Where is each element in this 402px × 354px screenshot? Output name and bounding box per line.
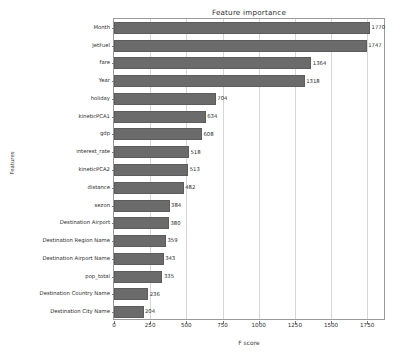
y-tick-mark (112, 277, 115, 278)
bar-value-label: 634 (207, 114, 217, 119)
bar[interactable] (114, 57, 311, 69)
y-tick-mark (112, 117, 115, 118)
y-tick-label: Destination Airport Name (2, 256, 110, 261)
bar[interactable] (114, 217, 169, 229)
y-tick-mark (112, 99, 115, 100)
y-tick-mark (112, 63, 115, 64)
y-tick-label: Destination Airport (2, 220, 110, 225)
y-tick-mark (112, 188, 115, 189)
bar-row[interactable]: 513 (114, 164, 200, 176)
y-tick-mark (112, 134, 115, 135)
bar-value-label: 343 (165, 256, 175, 261)
y-tick-mark (112, 241, 115, 242)
y-tick-label: Month (2, 25, 110, 30)
y-tick-mark (112, 81, 115, 82)
y-tick-mark (112, 259, 115, 260)
bar-value-label: 482 (185, 185, 195, 190)
bar-row[interactable]: 380 (114, 217, 181, 229)
chart-title: Feature importance (113, 8, 385, 17)
x-axis-label: F score (113, 339, 385, 346)
bar-value-label: 335 (164, 274, 174, 279)
bar-row[interactable]: 204 (114, 306, 155, 318)
bar-row[interactable]: 482 (114, 182, 195, 194)
x-tick-label: 1750 (360, 323, 374, 329)
bar-row[interactable]: 634 (114, 111, 217, 123)
x-gridline (367, 19, 368, 319)
bar-row[interactable]: 1318 (114, 75, 320, 87)
bar[interactable] (114, 75, 305, 87)
y-tick-label: gdp (2, 131, 110, 136)
bar-row[interactable]: 1770 (114, 22, 385, 34)
bar[interactable] (114, 271, 162, 283)
bar[interactable] (114, 164, 188, 176)
bar-row[interactable]: 384 (114, 200, 181, 212)
x-tick-label: 500 (181, 323, 192, 329)
x-gridline (331, 19, 332, 319)
y-tick-mark (112, 223, 115, 224)
bar-row[interactable]: 1364 (114, 57, 326, 69)
y-tick-label: JetFuel (2, 43, 110, 48)
y-tick-label: pop_total (2, 274, 110, 279)
y-tick-label: Destination Country Name (2, 291, 110, 296)
feature-importance-figure: Feature importance Features 025050075010… (0, 0, 402, 354)
bar-value-label: 1318 (306, 79, 319, 84)
bar[interactable] (114, 111, 206, 123)
bar-row[interactable]: 704 (114, 93, 227, 105)
x-tick-label: 1000 (252, 323, 266, 329)
bar-row[interactable]: 1747 (114, 40, 382, 52)
y-tick-mark (112, 312, 115, 313)
x-tick-label: 750 (217, 323, 228, 329)
bar-value-label: 1364 (313, 61, 326, 66)
x-tick-label: 250 (145, 323, 156, 329)
y-tick-label: interest_rate (2, 149, 110, 154)
bar-row[interactable]: 335 (114, 271, 174, 283)
y-tick-mark (112, 170, 115, 171)
bar-row[interactable]: 236 (114, 288, 160, 300)
bar-value-label: 380 (170, 221, 180, 226)
bar[interactable] (114, 235, 166, 247)
bar-value-label: 359 (167, 238, 177, 243)
bar-value-label: 518 (190, 150, 200, 155)
bar-value-label: 204 (145, 309, 155, 314)
bar[interactable] (114, 253, 164, 265)
bar-value-label: 513 (190, 167, 200, 172)
bar-row[interactable]: 608 (114, 128, 214, 140)
y-tick-mark (112, 152, 115, 153)
bar-row[interactable]: 359 (114, 235, 178, 247)
y-tick-label: distance (2, 185, 110, 190)
bar-row[interactable]: 343 (114, 253, 175, 265)
x-tick-label: 1500 (324, 323, 338, 329)
x-tick-label: 1250 (288, 323, 302, 329)
y-tick-label: holiday (2, 96, 110, 101)
bar-row[interactable]: 518 (114, 146, 201, 158)
plot-area: 025050075010001250150017501770Month1747J… (113, 18, 385, 320)
bar-value-label: 608 (203, 132, 213, 137)
bar[interactable] (114, 22, 370, 34)
y-tick-label: Destination City Name (2, 309, 110, 314)
bar[interactable] (114, 182, 184, 194)
y-tick-mark (112, 206, 115, 207)
y-tick-label: Year (2, 78, 110, 83)
y-tick-label: Destination Region Name (2, 238, 110, 243)
y-tick-label: kineticPCA1 (2, 114, 110, 119)
x-tick-label: 0 (112, 323, 116, 329)
y-tick-label: sezon (2, 203, 110, 208)
bar[interactable] (114, 93, 216, 105)
bar[interactable] (114, 40, 367, 52)
bar[interactable] (114, 306, 144, 318)
bar-value-label: 1747 (368, 43, 381, 48)
bar[interactable] (114, 128, 202, 140)
y-tick-mark (112, 28, 115, 29)
bar[interactable] (114, 200, 170, 212)
y-tick-mark (112, 46, 115, 47)
y-tick-mark (112, 294, 115, 295)
bar-value-label: 236 (150, 292, 160, 297)
bar-value-label: 1770 (372, 25, 385, 30)
y-tick-label: kineticPCA2 (2, 167, 110, 172)
bar[interactable] (114, 288, 148, 300)
y-tick-label: fare (2, 60, 110, 65)
bar-value-label: 704 (217, 96, 227, 101)
bar-value-label: 384 (171, 203, 181, 208)
bar[interactable] (114, 146, 189, 158)
